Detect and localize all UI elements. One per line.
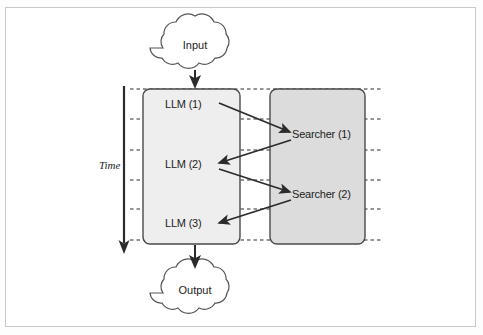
diagram-canvas bbox=[0, 0, 483, 335]
diagram-figure: Input Output LLM (1) Searcher (1) LLM (2… bbox=[0, 0, 483, 335]
input-cloud-label: Input bbox=[165, 39, 225, 51]
searcher-lane[interactable] bbox=[270, 89, 365, 244]
node-label-llm-2[interactable]: LLM (2) bbox=[165, 158, 202, 170]
node-label-llm-1[interactable]: LLM (1) bbox=[165, 98, 202, 110]
node-label-searcher-2[interactable]: Searcher (2) bbox=[292, 188, 351, 200]
output-cloud-label: Output bbox=[165, 284, 225, 296]
time-axis-label: Time bbox=[99, 159, 120, 171]
node-label-llm-3[interactable]: LLM (3) bbox=[165, 217, 202, 229]
node-label-searcher-1[interactable]: Searcher (1) bbox=[292, 128, 351, 140]
